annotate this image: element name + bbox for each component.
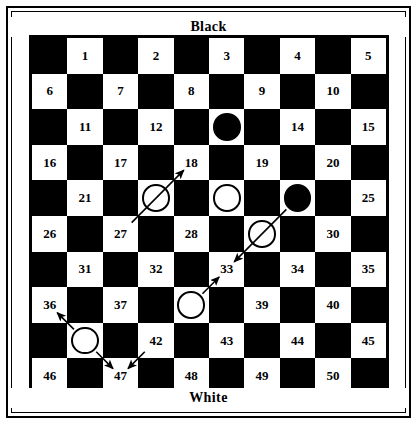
board-square-26[interactable]: 26 (32, 216, 67, 252)
board-square-3[interactable]: 3 (209, 38, 244, 74)
square-number-32: 32 (138, 261, 173, 277)
board-square-dark (244, 109, 279, 145)
square-number-39: 39 (244, 297, 279, 313)
board-square-36[interactable]: 36 (32, 287, 67, 323)
board-square-dark (280, 74, 315, 110)
board-square-dark (174, 252, 209, 288)
board-square-16[interactable]: 16 (32, 145, 67, 181)
board-square-33[interactable]: 33 (209, 252, 244, 288)
board-square-dark (103, 323, 138, 359)
board-square-dark (67, 216, 102, 252)
board-square-dark (32, 323, 67, 359)
square-number-3: 3 (209, 48, 244, 64)
square-number-19: 19 (244, 155, 279, 171)
board-square-dark (103, 252, 138, 288)
square-number-43: 43 (209, 333, 244, 349)
square-number-21: 21 (67, 190, 102, 206)
board-square-dark (209, 145, 244, 181)
square-number-7: 7 (103, 83, 138, 99)
board-square-dark (351, 74, 386, 110)
square-number-31: 31 (67, 261, 102, 277)
square-number-47: 47 (103, 368, 138, 384)
board-square-1[interactable]: 1 (67, 38, 102, 74)
board-square-35[interactable]: 35 (351, 252, 386, 288)
board-square-2[interactable]: 2 (138, 38, 173, 74)
board-square-6[interactable]: 6 (32, 74, 67, 110)
board-square-dark (174, 109, 209, 145)
board-square-10[interactable]: 10 (315, 74, 350, 110)
board-square-5[interactable]: 5 (351, 38, 386, 74)
board-square-25[interactable]: 25 (351, 180, 386, 216)
board-square-14[interactable]: 14 (280, 109, 315, 145)
board-square-dark (315, 323, 350, 359)
board-square-27[interactable]: 27 (103, 216, 138, 252)
square-number-4: 4 (280, 48, 315, 64)
board-square-9[interactable]: 9 (244, 74, 279, 110)
square-number-35: 35 (351, 261, 386, 277)
square-number-14: 14 (280, 119, 315, 135)
board-square-37[interactable]: 37 (103, 287, 138, 323)
piece-white-38[interactable] (177, 291, 205, 319)
board-square-34[interactable]: 34 (280, 252, 315, 288)
piece-black-24[interactable] (284, 184, 312, 212)
board-square-dark (315, 180, 350, 216)
square-number-49: 49 (244, 368, 279, 384)
board-square-28[interactable]: 28 (174, 216, 209, 252)
side-label-black: Black (8, 17, 409, 37)
square-number-37: 37 (103, 297, 138, 313)
board-square-8[interactable]: 8 (174, 74, 209, 110)
square-number-11: 11 (67, 119, 102, 135)
square-number-6: 6 (32, 83, 67, 99)
square-number-26: 26 (32, 226, 67, 242)
board-square-dark (103, 180, 138, 216)
board-square-11[interactable]: 11 (67, 109, 102, 145)
board-square-dark (32, 109, 67, 145)
board-square-dark (67, 74, 102, 110)
board-square-21[interactable]: 21 (67, 180, 102, 216)
board-square-dark (209, 216, 244, 252)
piece-white-23[interactable] (213, 184, 241, 212)
board-square-40[interactable]: 40 (315, 287, 350, 323)
piece-white-22[interactable] (142, 184, 170, 212)
board-square-dark (244, 38, 279, 74)
board-square-30[interactable]: 30 (315, 216, 350, 252)
board-square-43[interactable]: 43 (209, 323, 244, 359)
board-square-42[interactable]: 42 (138, 323, 173, 359)
board-square-7[interactable]: 7 (103, 74, 138, 110)
board-square-39[interactable]: 39 (244, 287, 279, 323)
board-square-dark (209, 74, 244, 110)
square-number-9: 9 (244, 83, 279, 99)
board-square-18[interactable]: 18 (174, 145, 209, 181)
board-square-17[interactable]: 17 (103, 145, 138, 181)
board-square-dark (280, 216, 315, 252)
board-square-31[interactable]: 31 (67, 252, 102, 288)
square-number-27: 27 (103, 226, 138, 242)
board-square-32[interactable]: 32 (138, 252, 173, 288)
board-square-44[interactable]: 44 (280, 323, 315, 359)
square-number-5: 5 (351, 48, 386, 64)
board-square-15[interactable]: 15 (351, 109, 386, 145)
board-square-dark (351, 287, 386, 323)
board-square-dark (315, 252, 350, 288)
square-number-40: 40 (315, 297, 350, 313)
side-label-white: White (8, 388, 409, 408)
board-square-20[interactable]: 20 (315, 145, 350, 181)
board-square-dark (174, 38, 209, 74)
board-square-45[interactable]: 45 (351, 323, 386, 359)
piece-white-41[interactable] (71, 327, 99, 355)
piece-black-13[interactable] (213, 113, 241, 141)
board-square-dark (174, 180, 209, 216)
board-square-dark (138, 74, 173, 110)
square-number-20: 20 (315, 155, 350, 171)
square-number-30: 30 (315, 226, 350, 242)
board-square-19[interactable]: 19 (244, 145, 279, 181)
diagram-frame: Black 1234567891011121415161718192021252… (6, 6, 411, 418)
board-square-12[interactable]: 12 (138, 109, 173, 145)
piece-white-29[interactable] (248, 220, 276, 248)
square-number-2: 2 (138, 48, 173, 64)
square-number-17: 17 (103, 155, 138, 171)
board-square-dark (315, 109, 350, 145)
board-border: 1234567891011121415161718192021252627283… (29, 35, 389, 397)
board-square-4[interactable]: 4 (280, 38, 315, 74)
board-square-dark (32, 180, 67, 216)
